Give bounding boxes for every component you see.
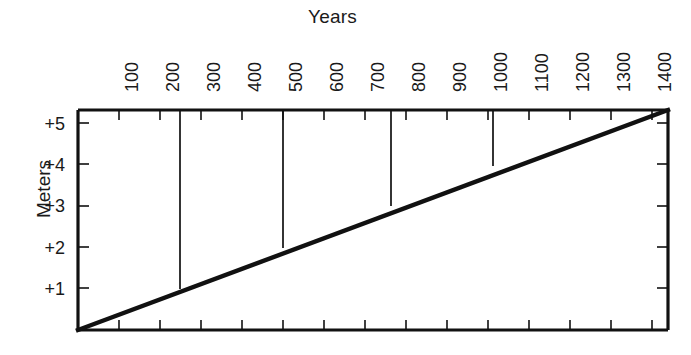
trend-line [78,110,668,330]
chart-figure: Years Meters +5 +4 +3 +2 +1 100 200 300 … [0,0,691,355]
y-axis-ticks-right [657,123,668,288]
drop-lines [180,110,493,289]
y-axis-ticks-left [78,123,89,288]
plot-area [0,0,691,355]
